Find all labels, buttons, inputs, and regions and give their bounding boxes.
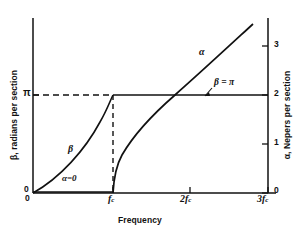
x-tick-label-fc-sub: c — [111, 196, 114, 204]
y-left-tick-label-0: 0 — [24, 184, 29, 194]
beta-curve-label: β — [68, 143, 73, 154]
figure-container: β, radians per section α, Nepers per sec… — [0, 0, 302, 233]
x-tick-label-3fc-sub: c — [265, 196, 268, 204]
y-right-tick-label-1: 1 — [274, 137, 279, 147]
x-tick-label-2fc-sub: c — [188, 196, 191, 204]
x-tick-label-3fc: 3fc — [257, 193, 268, 204]
x-tick-label-origin: 0 — [25, 193, 30, 203]
x-axis-title: Frequency — [118, 215, 162, 225]
x-tick-label-fc: fc — [108, 193, 114, 204]
beta-equals-pi-label: β = π — [214, 77, 234, 87]
x-tick-label-2fc: 2fc — [180, 193, 191, 204]
alpha-zero-label: α=0 — [62, 173, 77, 183]
alpha-curve-label: α — [199, 46, 205, 57]
y-right-tick-label-2: 2 — [274, 88, 279, 98]
y-axis-right-title: α, Nepers per section — [282, 50, 292, 180]
y-axis-left-title: β, radians per section — [9, 50, 19, 180]
y-right-tick-label-0: 0 — [274, 185, 279, 195]
alpha-curve — [113, 24, 253, 193]
y-left-tick-label-pi: π — [23, 87, 31, 98]
y-right-tick-label-3: 3 — [274, 39, 279, 49]
